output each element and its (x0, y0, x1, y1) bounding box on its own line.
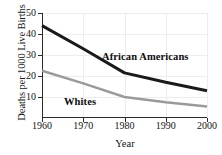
y-axis-tick-label: 30 (26, 50, 36, 60)
x-axis-tick-label: 1970 (73, 121, 93, 131)
y-axis-tick-label: 10 (26, 92, 36, 102)
infant-mortality-line-chart: Deaths per 1000 Live Births Year 1020304… (0, 0, 222, 155)
y-axis-tick-label: 50 (26, 8, 36, 18)
y-axis-tick-label: 40 (26, 29, 36, 39)
gridline-vertical (207, 13, 208, 118)
x-axis-tick-label: 1990 (156, 121, 176, 131)
y-axis-title: Deaths per 1000 Live Births (16, 0, 27, 128)
series-label-african-americans: African Americans (102, 51, 189, 62)
y-axis-tick-label: 20 (26, 71, 36, 81)
x-axis-title: Year (42, 138, 208, 149)
plot-area: 1020304050 19601970198019902000 African … (42, 13, 207, 118)
series-label-whites: Whites (64, 96, 96, 107)
x-axis-tick-label: 2000 (197, 121, 217, 131)
x-axis-tick-label: 1960 (32, 121, 52, 131)
x-axis-tick-label: 1980 (115, 121, 135, 131)
